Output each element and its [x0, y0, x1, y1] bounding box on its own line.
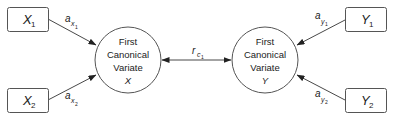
- node-y2-subscript: 2: [369, 101, 374, 110]
- variate-y-symbol: Y: [262, 75, 269, 86]
- variate-x-line2: Canonical: [107, 49, 149, 60]
- weight-ax2-subsub: 2: [75, 101, 78, 107]
- weight-label-ay1: a y 1: [315, 10, 328, 27]
- node-x1-subscript: 1: [31, 20, 36, 29]
- corr-base: r: [192, 45, 196, 56]
- node-y1-subscript: 1: [369, 20, 374, 29]
- variate-y-line3: Variate: [250, 62, 279, 73]
- corr-subsub: 1: [201, 54, 204, 60]
- node-x1: X 1: [8, 8, 49, 32]
- variate-y-line1: First: [256, 36, 275, 47]
- canonical-correlation-diagram: X 1 X 2 Y 1 Y 2 First Canonical Variate …: [0, 0, 393, 140]
- node-first-canonical-variate-y: First Canonical Variate Y: [232, 27, 298, 93]
- node-first-canonical-variate-x: First Canonical Variate X: [95, 27, 161, 93]
- node-x2-subscript: 2: [31, 101, 36, 110]
- variate-y-line2: Canonical: [244, 49, 286, 60]
- weight-ay1-subsub: 1: [325, 21, 328, 27]
- weight-ax1-subsub: 1: [75, 24, 78, 30]
- weight-ay2-subsub: 2: [325, 99, 328, 105]
- weight-label-ax2: a x 2: [65, 90, 78, 107]
- node-x2: X 2: [8, 89, 49, 113]
- weight-label-ax1: a x 1: [65, 13, 78, 30]
- node-y1: Y 1: [346, 8, 387, 32]
- node-y2: Y 2: [346, 89, 387, 113]
- correlation-label-rc1: r c 1: [192, 45, 204, 60]
- variate-x-line3: Variate: [113, 62, 142, 73]
- variate-x-line1: First: [119, 36, 138, 47]
- variate-x-symbol: X: [124, 75, 132, 86]
